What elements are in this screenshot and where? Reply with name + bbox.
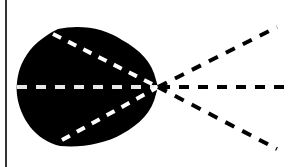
upper-outer-ray	[158, 27, 277, 87]
lower-outer-ray	[158, 87, 277, 149]
diagram-canvas	[0, 0, 291, 167]
polar-pattern-diagram	[0, 0, 291, 167]
